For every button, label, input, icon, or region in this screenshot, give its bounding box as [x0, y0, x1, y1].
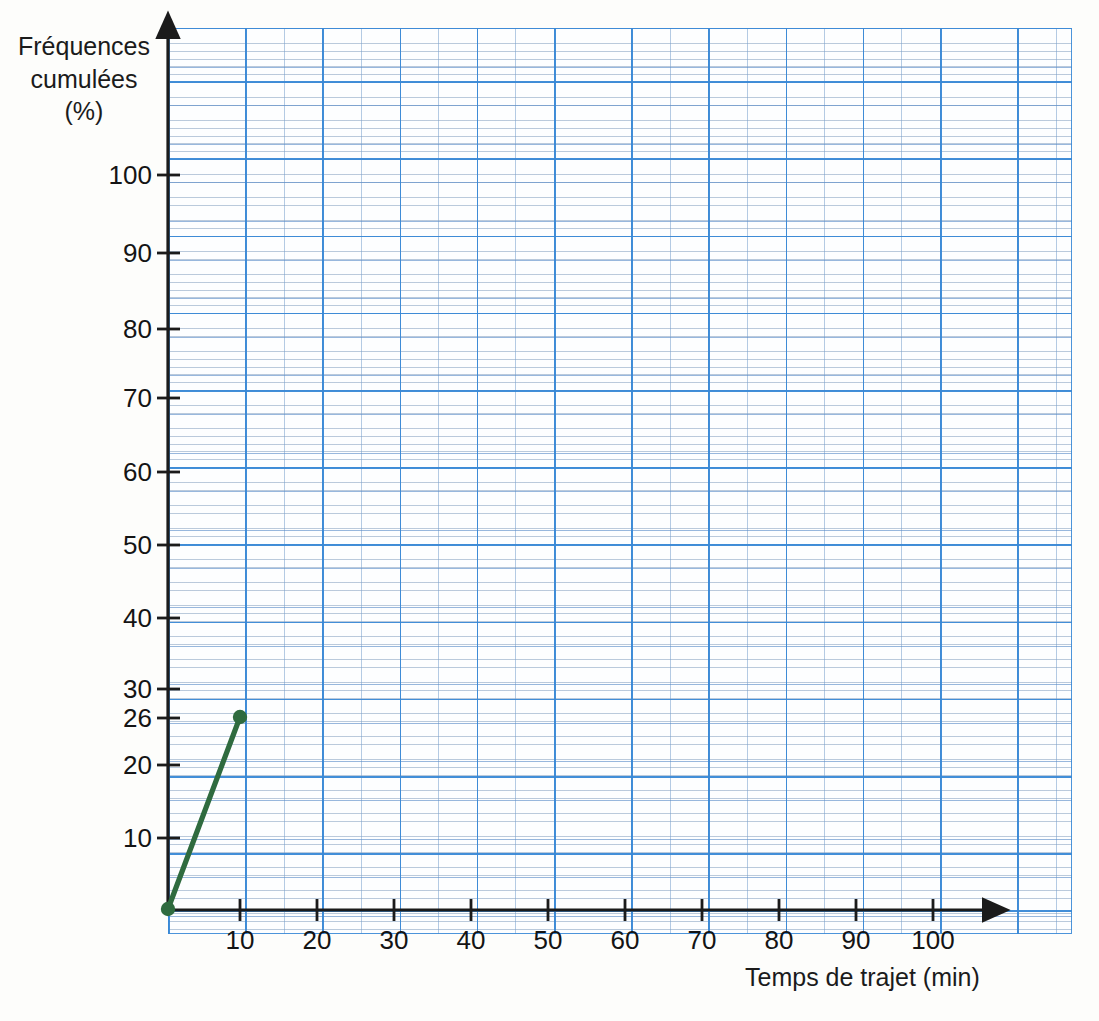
y-axis-title-line-2: cumulées — [8, 63, 160, 96]
x-tick-label: 60 — [590, 925, 660, 956]
y-tick-label: 10 — [88, 823, 152, 854]
y-axis-title: Fréquences cumulées (%) — [8, 30, 160, 128]
y-tick-label: 26 — [88, 703, 152, 734]
y-tick-label: 70 — [88, 383, 152, 414]
x-tick-label: 30 — [359, 925, 429, 956]
series-line-cumulative-frequency — [168, 717, 240, 909]
x-tick-label: 90 — [821, 925, 891, 956]
x-tick-label: 10 — [205, 925, 275, 956]
x-tick-label: 40 — [436, 925, 506, 956]
y-tick-label: 40 — [88, 603, 152, 634]
y-tick-label: 80 — [88, 314, 152, 345]
data-point-marker — [233, 710, 247, 724]
y-axis-title-line-1: Fréquences — [8, 30, 160, 63]
x-tick-label: 80 — [744, 925, 814, 956]
data-point-marker — [161, 902, 175, 916]
y-tick-label: 20 — [88, 750, 152, 781]
y-axis-title-line-3: (%) — [8, 95, 160, 128]
x-tick-label: 100 — [898, 925, 968, 956]
x-tick-label: 70 — [667, 925, 737, 956]
y-tick-label: 90 — [88, 238, 152, 269]
x-tick-label: 50 — [513, 925, 583, 956]
y-tick-label: 100 — [88, 160, 152, 191]
y-tick-label: 60 — [88, 457, 152, 488]
x-tick-label: 20 — [282, 925, 352, 956]
y-tick-label: 50 — [88, 530, 152, 561]
chart-plot-area — [0, 0, 1099, 1021]
y-tick-label: 30 — [88, 674, 152, 705]
x-axis-title: Temps de trajet (min) — [745, 963, 980, 992]
